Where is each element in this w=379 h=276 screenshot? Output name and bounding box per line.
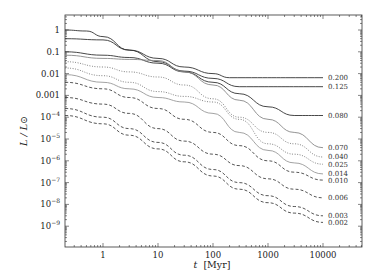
y-tick-label: 0.01 <box>41 69 60 79</box>
x-tick-label: 10 <box>153 250 164 260</box>
x-tick-label: 1000 <box>257 250 279 260</box>
y-tick-label: 10−9 <box>40 219 60 231</box>
y-axis-ticks: 10.10.010.00110−410−510−610−710−810−9 <box>36 17 362 242</box>
curve-label: 0.010 <box>328 177 348 185</box>
curve-0.070 <box>65 55 323 148</box>
curve-0.040 <box>65 62 323 157</box>
curve-labels: 0.2000.1250.0800.0700.0400.0250.0140.010… <box>328 74 349 227</box>
x-tick-label: 10000 <box>309 250 336 260</box>
curve-label: 0.080 <box>328 112 348 120</box>
curve-0.200 <box>65 30 323 78</box>
luminosity-evolution-chart: 110100100010000 10.10.010.00110−410−510−… <box>0 0 379 276</box>
curve-label: 0.200 <box>328 74 348 82</box>
curve-label: 0.006 <box>328 194 349 202</box>
x-axis-title: t [Myr] <box>194 259 231 270</box>
y-tick-label: 10−4 <box>40 110 60 122</box>
x-axis-ticks: 110100100010000 <box>74 15 361 260</box>
curve-0.080 <box>65 52 323 116</box>
x-tick-label: 1 <box>100 250 105 260</box>
curves <box>65 30 323 222</box>
y-axis-title: L / L⊙ <box>18 116 29 147</box>
curve-label: 0.025 <box>328 161 348 169</box>
y-tick-label: 10−6 <box>40 154 60 166</box>
plot-frame <box>65 15 362 247</box>
curve-label: 0.125 <box>328 83 348 91</box>
y-tick-label: 0.1 <box>46 47 60 57</box>
curve-label: 0.002 <box>328 219 348 227</box>
y-tick-label: 10−5 <box>40 132 60 144</box>
curve-0.010 <box>65 82 323 180</box>
y-tick-label: 10−7 <box>40 176 60 188</box>
y-tick-label: 10−8 <box>40 197 60 209</box>
curve-0.014 <box>65 75 323 174</box>
curve-0.125 <box>65 39 323 87</box>
curve-0.003 <box>65 109 323 216</box>
curve-label: 0.070 <box>328 144 348 152</box>
y-tick-label: 1 <box>55 25 60 35</box>
y-tick-label: 0.001 <box>36 90 60 100</box>
